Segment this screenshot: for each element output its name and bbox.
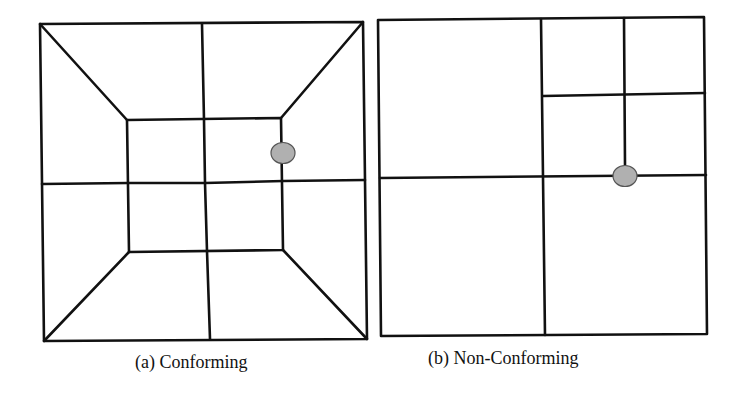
panel-nonconforming-mesh	[378, 17, 707, 336]
caption-nonconforming: (b) Non-Conforming	[428, 348, 578, 369]
center-vertical-line	[202, 24, 210, 339]
spoke-top-right	[281, 22, 363, 118]
horizontal-split	[380, 175, 706, 178]
highlighted-node-conforming	[271, 143, 295, 164]
spoke-bottom-right	[283, 250, 367, 339]
panel-conforming-mesh	[40, 22, 367, 341]
spoke-bottom-left	[44, 252, 129, 341]
hanging-node-nonconforming	[613, 166, 637, 187]
refined-horizontal	[543, 93, 705, 96]
refined-vertical	[624, 18, 625, 165]
spoke-top-left	[40, 24, 127, 120]
caption-conforming: (a) Conforming	[135, 352, 247, 373]
center-horizontal-line	[42, 180, 365, 184]
mesh-diagram	[0, 0, 746, 395]
